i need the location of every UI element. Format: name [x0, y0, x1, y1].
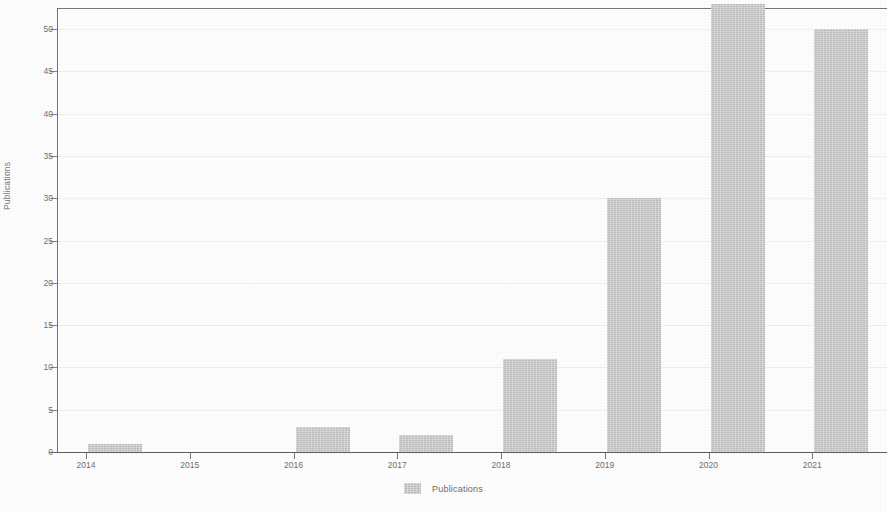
x-tick-mark — [501, 452, 502, 459]
x-tick-mark — [294, 452, 295, 459]
chart-legend: Publications — [0, 483, 887, 494]
y-tick-label: 45 — [44, 66, 53, 76]
y-tick-label: 30 — [44, 193, 53, 203]
plot-area: 05101520253035404550 2014201520162017201… — [57, 8, 887, 452]
y-tick-label: 40 — [44, 109, 53, 119]
x-tick-label: 2021 — [803, 460, 822, 470]
y-tick-label: 25 — [44, 236, 53, 246]
x-tick-label: 2016 — [284, 460, 303, 470]
bar-2019 — [607, 198, 661, 452]
bar-2020 — [711, 4, 765, 452]
x-tick-mark — [812, 452, 813, 459]
y-axis-label: Publications — [2, 100, 12, 210]
x-tick-mark — [86, 452, 87, 459]
y-tick-label: 35 — [44, 151, 53, 161]
x-tick-mark — [605, 452, 606, 459]
bar-2018 — [503, 359, 557, 452]
x-tick-mark — [397, 452, 398, 459]
bar-2016 — [296, 427, 350, 452]
y-tick-label: 5 — [48, 405, 53, 415]
x-tick-label: 2018 — [492, 460, 511, 470]
bar-2014 — [88, 444, 142, 452]
x-tick-label: 2020 — [699, 460, 718, 470]
legend-swatch-publications — [404, 483, 421, 494]
bar-series — [57, 8, 887, 452]
bar-2017 — [399, 435, 453, 452]
x-axis-line — [49, 452, 887, 453]
bar-2021 — [814, 29, 868, 452]
bar-chart-figure: Publications 05101520253035404550 201420… — [0, 0, 887, 512]
x-tick-mark — [190, 452, 191, 459]
x-tick-label: 2014 — [77, 460, 96, 470]
y-tick-label: 0 — [48, 447, 53, 457]
legend-label-publications: Publications — [432, 484, 483, 494]
x-tick-label: 2017 — [388, 460, 407, 470]
x-tick-label: 2019 — [595, 460, 614, 470]
x-tick-label: 2015 — [180, 460, 199, 470]
y-tick-label: 15 — [44, 320, 53, 330]
x-tick-mark — [709, 452, 710, 459]
y-tick-label: 50 — [44, 24, 53, 34]
y-tick-label: 20 — [44, 278, 53, 288]
y-tick-label: 10 — [44, 362, 53, 372]
